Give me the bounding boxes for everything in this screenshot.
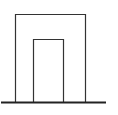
outer-frame: [16, 15, 86, 103]
inner-frame: [34, 40, 64, 103]
diagram-canvas: [0, 0, 118, 115]
